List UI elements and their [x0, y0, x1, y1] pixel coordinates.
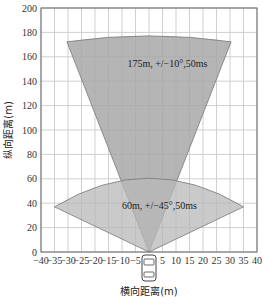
y-tick-label: 100 — [22, 125, 37, 136]
x-tick-label: 30 — [225, 255, 235, 266]
y-axis-ticks: 020406080100120140160180200 — [22, 3, 37, 258]
x-tick-label: −10 — [114, 255, 130, 266]
y-tick-label: 160 — [22, 51, 37, 62]
y-tick-label: 180 — [22, 27, 37, 38]
x-axis-label: 横向距离(m) — [120, 285, 178, 297]
mid-range-coverage — [55, 178, 244, 252]
x-tick-label: 35 — [239, 255, 249, 266]
y-tick-label: 80 — [27, 149, 37, 160]
long-range-annotation: 175m, +/−10°,50ms — [127, 58, 207, 69]
radar-coverage-chart: −40−35−30−25−20−15−10−5510152025303540 0… — [0, 0, 263, 305]
x-tick-label: 15 — [185, 255, 195, 266]
x-tick-label: 5 — [160, 255, 165, 266]
x-tick-label: 10 — [171, 255, 181, 266]
y-tick-label: 40 — [27, 198, 37, 209]
x-tick-label: 40 — [252, 255, 262, 266]
y-tick-label: 0 — [32, 247, 37, 258]
y-tick-label: 120 — [22, 100, 37, 111]
y-tick-label: 60 — [27, 173, 37, 184]
x-tick-label: 20 — [198, 255, 208, 266]
y-tick-label: 20 — [27, 222, 37, 233]
vehicle-icon — [142, 255, 156, 281]
mid-range-annotation: 60m, +/−45°,50ms — [122, 200, 197, 211]
x-tick-label: −5 — [130, 255, 141, 266]
x-tick-label: 25 — [212, 255, 222, 266]
y-tick-label: 200 — [22, 3, 37, 14]
y-axis-label: 纵向距离(m) — [2, 101, 14, 159]
y-tick-label: 140 — [22, 76, 37, 87]
